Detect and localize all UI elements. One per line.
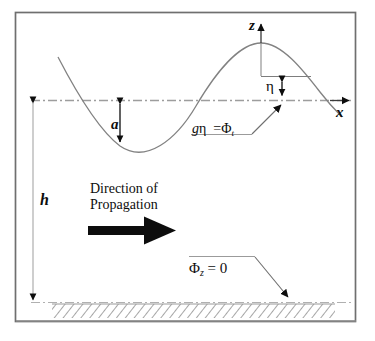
bottom-condition-leader (255, 257, 288, 297)
seabed-hatching (52, 304, 335, 318)
wave-theory-diagram: z x η a h Direction of Propagation gη =Φ… (0, 0, 375, 341)
bottom-condition-phi: Φ (189, 260, 200, 276)
x-axis-label: x (336, 105, 344, 120)
surface-condition-subscript: t (231, 128, 234, 138)
bottom-condition-rest: = 0 (208, 260, 228, 276)
bottom-condition-subscript: z (200, 267, 204, 278)
bottom-boundary-condition-label: Φz = 0 (189, 261, 227, 278)
diagram-canvas (0, 0, 375, 341)
dynamic-free-surface-condition-label: gη =Φt (192, 122, 234, 138)
z-axis-label: z (249, 18, 255, 33)
surface-condition-eta: η (199, 121, 206, 136)
propagation-direction-line-1: Direction of (90, 181, 158, 197)
depth-label: h (40, 192, 49, 208)
surface-condition-leader (252, 105, 281, 134)
figure-frame (16, 13, 356, 322)
propagation-direction-label: Direction of Propagation (90, 181, 158, 213)
surface-condition-gravity: g (192, 121, 199, 136)
propagation-arrow (88, 217, 176, 245)
surface-elevation-label: η (266, 79, 274, 94)
propagation-direction-line-2: Propagation (90, 197, 158, 213)
amplitude-label: a (111, 117, 119, 132)
surface-condition-phi: Φ (221, 121, 231, 136)
